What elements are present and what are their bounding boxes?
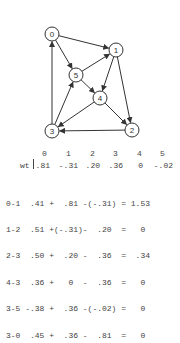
wt-value-0: .81 [26, 161, 50, 170]
edge-4-3 [58, 102, 94, 127]
svg-text:3: 3 [50, 127, 55, 136]
edge-1-2 [117, 57, 130, 123]
wt-index-0: 0 [42, 149, 47, 158]
node-1: 1 [109, 43, 123, 57]
edge-4-2 [105, 103, 127, 125]
svg-text:4: 4 [98, 94, 103, 103]
graph-diagram: 012345 [0, 0, 180, 145]
edge-computation-list: 0-1 .41 + .81 -(-.31) = 1.53 1-2 .51 +(-… [6, 182, 150, 343]
list-item: 2-3 .50 + .20 - .36 = .34 [6, 252, 150, 261]
edge-5-1 [82, 54, 110, 71]
svg-text:2: 2 [130, 126, 135, 135]
edge-0-1 [59, 36, 109, 48]
node-5: 5 [69, 68, 83, 82]
wt-value-1: -.31 [54, 161, 78, 170]
edge-1-4 [102, 57, 113, 91]
wt-value-4: 0 [119, 161, 143, 170]
list-item: 0-1 .41 + .81 -(-.31) = 1.53 [6, 200, 150, 209]
wt-index-5: 5 [160, 149, 165, 158]
wt-index-3: 3 [113, 149, 118, 158]
svg-text:1: 1 [114, 46, 119, 55]
list-item: 3-0 .45 + .36 - .81 = 0 [6, 332, 150, 341]
list-item: 1-2 .51 +(-.31)- .20 = 0 [6, 226, 150, 235]
list-item: 3-5 -.38 + .36 -(-.02) = 0 [6, 305, 150, 314]
edge-2-3 [59, 130, 125, 131]
wt-index-4: 4 [137, 149, 142, 158]
wt-index-1: 1 [66, 149, 71, 158]
node-4: 4 [93, 91, 107, 105]
wt-index-2: 2 [90, 149, 95, 158]
node-0: 0 [45, 27, 59, 41]
edge-0-5 [56, 40, 73, 68]
node-2: 2 [125, 123, 139, 137]
edge-5-4 [81, 80, 95, 93]
wt-value-2: .20 [76, 161, 100, 170]
svg-text:0: 0 [50, 30, 55, 39]
list-item: 4-3 .36 + 0 - .36 = 0 [6, 279, 150, 288]
node-3: 3 [45, 124, 59, 138]
svg-text:5: 5 [74, 71, 79, 80]
wt-value-5: -.02 [149, 161, 173, 170]
